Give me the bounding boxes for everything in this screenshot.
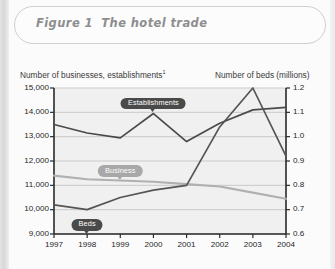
- scan-edge-left-artifact: [0, 0, 9, 269]
- y2-axis-tick-label: 1.0: [293, 131, 323, 140]
- y-axis-tick-label: 15,000: [12, 83, 49, 92]
- y-axis-tick-label: 10,000: [12, 204, 49, 213]
- page-background: Figure 1 The hotel trade Number of busin…: [0, 0, 335, 269]
- left-axis-caption-footnote-marker: 1: [163, 69, 166, 75]
- y-axis-tick-label: 13,000: [12, 131, 49, 140]
- figure-title: Figure 1 The hotel trade: [36, 16, 207, 30]
- y-axis-tick-label: 9,000: [12, 229, 49, 238]
- x-axis-tick-label: 2000: [137, 240, 169, 249]
- y2-axis-tick-label: 0.8: [293, 180, 323, 189]
- x-axis-tick-label: 2004: [270, 240, 302, 249]
- x-axis-tick-label: 2003: [237, 240, 269, 249]
- figure-number: Figure 1: [36, 16, 93, 30]
- callout-beds-label: Beds: [79, 219, 96, 228]
- y2-axis-tick-label: 0.9: [293, 156, 323, 165]
- x-axis-tick-label: 2002: [204, 240, 236, 249]
- left-axis-caption-text: Number of businesses, establishments: [20, 70, 163, 80]
- y2-axis-tick-label: 1.2: [293, 83, 323, 92]
- x-axis-tick-label: 1999: [104, 240, 136, 249]
- callout-beds: Beds: [72, 219, 103, 231]
- x-axis-tick-label: 2001: [171, 240, 203, 249]
- scan-edge-right-artifact: [330, 0, 335, 269]
- figure-title-text: The hotel trade: [101, 16, 207, 30]
- callout-business-label: Business: [105, 166, 135, 175]
- y2-axis-tick-label: 0.7: [293, 204, 323, 213]
- callout-business: Business: [98, 165, 142, 177]
- left-axis-caption: Number of businesses, establishments1: [20, 70, 166, 80]
- callout-establishments: Establishments: [121, 98, 186, 110]
- y-axis-tick-label: 11,000: [12, 180, 49, 189]
- y-axis-tick-label: 12,000: [12, 156, 49, 165]
- y2-axis-tick-label: 1.1: [293, 107, 323, 116]
- callout-establishments-label: Establishments: [128, 98, 179, 107]
- y-axis-tick-label: 14,000: [12, 107, 49, 116]
- x-axis-tick-label: 1997: [38, 240, 70, 249]
- right-axis-caption: Number of beds (millions): [215, 70, 310, 80]
- x-axis-tick-label: 1998: [71, 240, 103, 249]
- y2-axis-tick-label: 0.6: [293, 229, 323, 238]
